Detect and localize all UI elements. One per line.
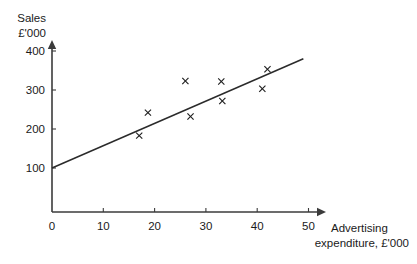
- y-axis-tick-label: 100: [26, 162, 45, 174]
- x-axis-tick-label: 50: [302, 220, 315, 232]
- data-point-marker: [145, 110, 151, 116]
- data-point-marker: [219, 98, 225, 104]
- y-axis-title-line1: Sales: [17, 12, 46, 24]
- y-axis-tick-label: 300: [26, 84, 45, 96]
- x-axis-tick-label: 0: [49, 220, 55, 232]
- scatter-chart-figure: 01020304050100200300400Sales£'000Adverti…: [0, 0, 417, 264]
- trend-line-group: [52, 59, 303, 168]
- scatter-plot-canvas: 01020304050100200300400Sales£'000Adverti…: [0, 0, 417, 264]
- data-point-marker: [264, 66, 270, 72]
- y-axis-tick-label: 200: [26, 123, 45, 135]
- data-point-marker: [182, 78, 188, 84]
- line-of-best-fit: [52, 59, 303, 168]
- axis-labels-group: 01020304050100200300400Sales£'000Adverti…: [17, 12, 409, 249]
- y-axis-arrow-icon: [48, 40, 56, 49]
- x-axis-tick-label: 40: [251, 220, 264, 232]
- x-axis-tick-label: 30: [200, 220, 213, 232]
- data-point-marker: [136, 133, 142, 139]
- x-axis-arrow-icon: [317, 208, 326, 216]
- x-axis-title-line1: Advertising: [331, 222, 388, 234]
- data-point-marker: [259, 86, 265, 92]
- data-point-marker: [218, 78, 224, 84]
- x-axis-tick-label: 10: [97, 220, 110, 232]
- x-axis-title-line2: expenditure, £'000: [315, 237, 409, 249]
- data-point-marker: [187, 113, 193, 119]
- x-axis-tick-label: 20: [148, 220, 161, 232]
- y-axis-title-line2: £'000: [18, 27, 46, 39]
- y-axis-tick-label: 400: [26, 45, 45, 57]
